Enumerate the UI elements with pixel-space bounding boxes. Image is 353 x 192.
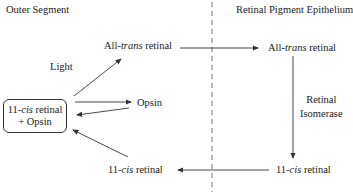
node-prefix: All- <box>268 42 285 53</box>
node-italic: cis <box>21 104 33 115</box>
complex-line-1: 11-cis retinal <box>8 104 63 116</box>
arrow-11-cis-to-complex <box>73 130 128 157</box>
node-italic: cis <box>122 164 134 175</box>
node-prefix: 11- <box>108 164 122 175</box>
edge-label-retinal-isomerase: Retinal Isomerase <box>300 94 343 120</box>
node-italic: trans <box>121 40 143 51</box>
node-suffix: retinal <box>143 40 172 51</box>
node-opsin: Opsin <box>137 97 162 109</box>
node-suffix: retinal <box>301 164 330 175</box>
region-label-outer-segment: Outer Segment <box>6 4 69 16</box>
node-prefix: All- <box>104 40 121 51</box>
node-suffix: retinal <box>133 164 162 175</box>
node-prefix: 11- <box>8 104 22 115</box>
node-rpe-11-cis-retinal: 11-cis retinal <box>276 164 331 176</box>
node-rpe-all-trans-retinal: All-trans retinal <box>268 42 336 54</box>
node-italic: trans <box>285 42 307 53</box>
arrow-opsin-to-complex <box>77 108 129 115</box>
isomerase-line-1: Retinal <box>300 94 343 106</box>
node-prefix: 11- <box>276 164 290 175</box>
node-os-11-cis-retinal: 11-cis retinal <box>108 164 163 176</box>
arrow-complex-to-all-trans <box>74 59 121 96</box>
node-suffix: retinal <box>307 42 336 53</box>
region-label-rpe: Retinal Pigment Epithelium <box>236 4 353 16</box>
node-rhodopsin-complex: 11-cis retinal + Opsin <box>3 99 67 133</box>
edge-label-light: Light <box>50 61 73 73</box>
node-suffix: retinal <box>33 104 62 115</box>
isomerase-line-2: Isomerase <box>300 108 343 120</box>
complex-line-2: + Opsin <box>18 116 52 128</box>
node-italic: cis <box>290 164 302 175</box>
node-os-all-trans-retinal: All-trans retinal <box>104 40 172 52</box>
